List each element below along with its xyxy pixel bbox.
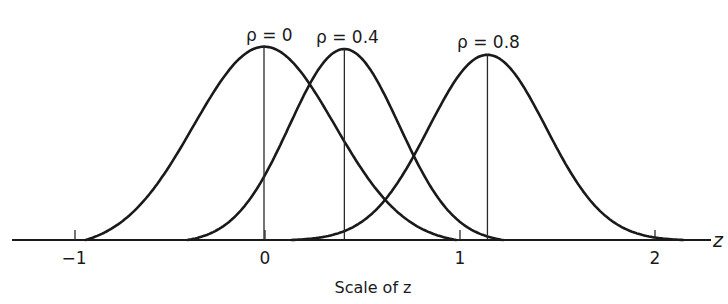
curve-rho-0 (86, 47, 457, 240)
curve-label-rho-0-4: ρ = 0.4 (316, 27, 379, 47)
tick-label-1: 1 (455, 248, 466, 268)
axis-variable-z: z (712, 229, 724, 251)
tick-label-minus-1: −1 (61, 248, 86, 268)
curve-label-rho-0: ρ = 0 (246, 25, 293, 45)
x-axis-label: Scale of z (334, 278, 411, 297)
curve-label-rho-0-8: ρ = 0.8 (457, 32, 520, 52)
tick-label-2: 2 (650, 248, 661, 268)
chart: −1 0 1 2 z Scale of z ρ = 0 ρ = 0.4 ρ = … (0, 0, 728, 304)
x-ticks (75, 230, 655, 240)
curves (86, 47, 684, 240)
tick-label-0: 0 (260, 248, 271, 268)
